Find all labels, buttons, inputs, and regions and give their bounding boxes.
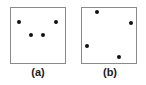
panel-a-caption: (a) xyxy=(31,66,44,78)
panel-a-box xyxy=(10,7,66,64)
panel-b-box xyxy=(81,7,137,64)
point-a-2 xyxy=(54,20,58,24)
point-a-4 xyxy=(41,33,45,37)
point-b-3 xyxy=(85,44,89,48)
point-a-3 xyxy=(29,33,33,37)
point-b-4 xyxy=(117,55,121,59)
point-b-1 xyxy=(95,10,99,14)
point-a-1 xyxy=(17,20,21,24)
panel-b-caption: (b) xyxy=(103,66,117,78)
point-b-2 xyxy=(129,21,133,25)
